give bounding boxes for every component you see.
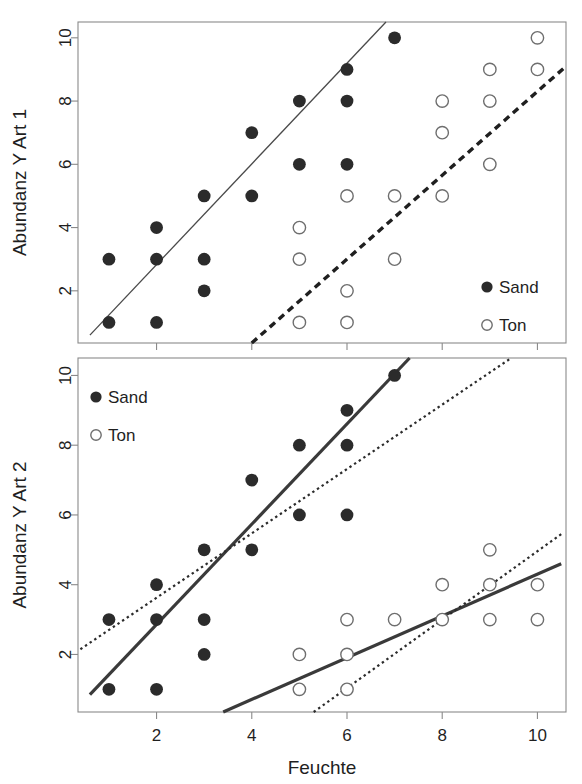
y-tick-label-bottom-6: 6 (56, 510, 75, 519)
data-point-bottom-sand[interactable] (103, 683, 116, 696)
data-point-bottom-ton[interactable] (484, 544, 496, 556)
legend-marker-sand-bottom (90, 391, 101, 402)
figure-container: 246810Abundanz Y Art 1SandTon24681024681… (0, 0, 582, 784)
data-point-top-ton[interactable] (531, 32, 543, 44)
y-axis-title-bottom: Abundanz Y Art 2 (9, 461, 30, 608)
data-point-bottom-sand[interactable] (293, 509, 306, 522)
data-point-bottom-ton[interactable] (341, 613, 353, 625)
scatter-plot-figure: 246810Abundanz Y Art 1SandTon24681024681… (0, 0, 582, 784)
x-tick-label-2: 2 (152, 726, 161, 745)
legend-marker-ton-bottom (91, 430, 101, 440)
data-point-top-sand[interactable] (388, 31, 401, 44)
legend-bottom: SandTon (90, 388, 147, 445)
data-point-top-sand[interactable] (150, 253, 163, 266)
panel-bottom: 246810246810Abundanz Y Art 2FeuchteSandT… (9, 358, 566, 778)
data-point-top-ton[interactable] (436, 126, 448, 138)
data-point-bottom-ton[interactable] (341, 683, 353, 695)
series-bottom-ton (293, 544, 543, 696)
y-tick-label-bottom-10: 10 (56, 366, 75, 385)
data-point-bottom-sand[interactable] (245, 474, 258, 487)
panel-top: 246810Abundanz Y Art 1SandTon (9, 22, 566, 350)
data-point-bottom-ton[interactable] (436, 613, 448, 625)
legend-label-ton-bottom: Ton (108, 426, 135, 445)
data-point-bottom-ton[interactable] (531, 613, 543, 625)
y-tick-label-bottom-2: 2 (56, 650, 75, 659)
legend-label-sand-bottom: Sand (108, 388, 148, 407)
data-point-top-ton[interactable] (484, 95, 496, 107)
series-top-sand (103, 31, 401, 328)
data-point-top-sand[interactable] (293, 95, 306, 108)
data-point-top-ton[interactable] (484, 158, 496, 170)
y-tick-label-top-2: 2 (56, 286, 75, 295)
data-point-bottom-sand[interactable] (198, 543, 211, 556)
data-point-top-sand[interactable] (198, 190, 211, 203)
data-point-top-ton[interactable] (388, 253, 400, 265)
data-point-bottom-sand[interactable] (103, 613, 116, 626)
data-point-top-ton[interactable] (531, 63, 543, 75)
data-point-top-sand[interactable] (103, 316, 116, 329)
data-point-bottom-sand[interactable] (198, 613, 211, 626)
data-point-top-ton[interactable] (293, 221, 305, 233)
data-point-top-sand[interactable] (150, 316, 163, 329)
data-point-top-sand[interactable] (198, 253, 211, 266)
data-point-top-sand[interactable] (245, 126, 258, 139)
data-point-bottom-sand[interactable] (245, 543, 258, 556)
y-tick-label-top-4: 4 (56, 223, 75, 232)
x-tick-label-10: 10 (528, 726, 547, 745)
data-point-top-ton[interactable] (341, 285, 353, 297)
data-point-bottom-sand[interactable] (341, 404, 354, 417)
data-point-top-sand[interactable] (103, 253, 116, 266)
data-point-bottom-sand[interactable] (198, 648, 211, 661)
data-point-top-ton[interactable] (293, 316, 305, 328)
y-axis-title-top: Abundanz Y Art 1 (9, 109, 30, 256)
data-point-top-ton[interactable] (341, 190, 353, 202)
legend-marker-sand-top (481, 281, 492, 292)
data-point-bottom-sand[interactable] (341, 439, 354, 452)
y-tick-label-top-6: 6 (56, 160, 75, 169)
x-axis-title: Feuchte (288, 757, 357, 778)
data-point-bottom-ton[interactable] (484, 578, 496, 590)
fit-line-bottom-0 (90, 358, 410, 695)
data-point-bottom-sand[interactable] (341, 509, 354, 522)
legend-top: SandTon (481, 278, 538, 335)
data-point-top-sand[interactable] (245, 190, 258, 203)
data-point-top-ton[interactable] (341, 316, 353, 328)
y-tick-label-bottom-4: 4 (56, 580, 75, 589)
y-tick-label-top-8: 8 (56, 96, 75, 105)
data-point-top-ton[interactable] (293, 253, 305, 265)
data-point-bottom-sand[interactable] (150, 578, 163, 591)
data-point-top-sand[interactable] (198, 284, 211, 297)
data-point-bottom-ton[interactable] (388, 613, 400, 625)
data-point-top-sand[interactable] (150, 221, 163, 234)
legend-label-ton-top: Ton (499, 316, 526, 335)
data-point-bottom-ton[interactable] (341, 648, 353, 660)
data-point-bottom-ton[interactable] (531, 578, 543, 590)
data-point-top-ton[interactable] (388, 190, 400, 202)
y-tick-label-bottom-8: 8 (56, 440, 75, 449)
data-point-top-ton[interactable] (484, 63, 496, 75)
data-point-top-ton[interactable] (436, 190, 448, 202)
data-point-top-ton[interactable] (436, 95, 448, 107)
data-point-bottom-sand[interactable] (150, 683, 163, 696)
x-tick-label-4: 4 (247, 726, 256, 745)
data-point-bottom-sand[interactable] (388, 369, 401, 382)
data-point-top-sand[interactable] (341, 63, 354, 76)
data-point-top-sand[interactable] (341, 158, 354, 171)
data-point-top-sand[interactable] (341, 95, 354, 108)
data-point-bottom-ton[interactable] (436, 578, 448, 590)
data-point-bottom-sand[interactable] (150, 613, 163, 626)
fit-line-top-1 (252, 66, 566, 343)
legend-label-sand-top: Sand (499, 278, 539, 297)
x-tick-label-8: 8 (437, 726, 446, 745)
data-point-top-sand[interactable] (293, 158, 306, 171)
fit-line-bottom-1 (223, 564, 561, 712)
data-point-bottom-ton[interactable] (484, 613, 496, 625)
legend-marker-ton-top (482, 320, 492, 330)
data-point-bottom-ton[interactable] (293, 683, 305, 695)
plot-frame-bottom (78, 358, 566, 712)
data-point-bottom-sand[interactable] (293, 439, 306, 452)
x-tick-label-6: 6 (342, 726, 351, 745)
data-point-bottom-ton[interactable] (293, 648, 305, 660)
y-tick-label-top-10: 10 (56, 28, 75, 47)
